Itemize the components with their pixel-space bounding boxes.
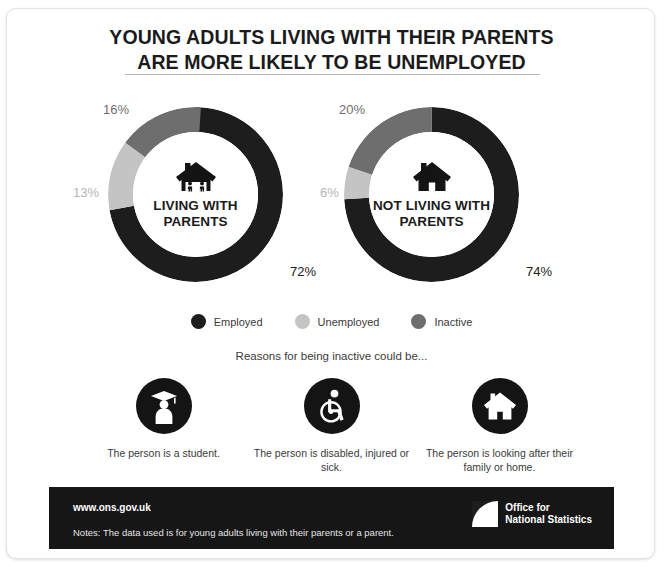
- title-line-2: ARE MORE LIKELY TO BE UNEMPLOYED: [7, 50, 655, 75]
- title-line-1: YOUNG ADULTS LIVING WITH THEIR PARENTS: [7, 25, 655, 50]
- pct-right-employed: 74%: [526, 264, 552, 279]
- reason-student: The person is a student.: [80, 378, 248, 474]
- donut-label-left: LIVING WITH PARENTS: [133, 198, 258, 230]
- ons-logo-text: Office for National Statistics: [505, 502, 592, 526]
- pct-right-inactive: 20%: [339, 102, 365, 117]
- house-with-people-icon: [175, 160, 217, 192]
- legend-item-employed: Employed: [191, 314, 263, 329]
- reasons-caption: Reasons for being inactive could be...: [7, 350, 655, 362]
- donut-label-right: NOT LIVING WITH PARENTS: [369, 198, 494, 230]
- donut-center-left: LIVING WITH PARENTS: [133, 132, 258, 257]
- reason-family-home: The person is looking after their family…: [416, 378, 584, 474]
- page-title: YOUNG ADULTS LIVING WITH THEIR PARENTS A…: [7, 25, 655, 75]
- reasons-row: The person is a student. The person is d…: [7, 378, 655, 474]
- legend-dot-employed: [191, 314, 206, 329]
- pct-left-employed: 72%: [290, 264, 316, 279]
- footer-notes: Notes: The data used is for young adults…: [73, 527, 394, 538]
- legend-label-unemployed: Unemployed: [318, 316, 380, 328]
- reason-text-disabled: The person is disabled, injured or sick.: [248, 446, 416, 474]
- ons-logo: Office for National Statistics: [472, 501, 592, 527]
- pct-left-inactive: 16%: [103, 102, 129, 117]
- ons-logo-line-1: Office for: [505, 502, 592, 514]
- legend-item-inactive: Inactive: [411, 314, 472, 329]
- reason-circle-student: [136, 378, 192, 434]
- reason-disabled: The person is disabled, injured or sick.: [248, 378, 416, 474]
- reason-circle-family-home: [472, 378, 528, 434]
- house-icon: [483, 391, 517, 421]
- pct-right-unemployed: 6%: [320, 185, 339, 200]
- reason-text-student: The person is a student.: [107, 446, 220, 460]
- legend-dot-unemployed: [295, 314, 310, 329]
- ons-logo-mark: [472, 501, 498, 527]
- reason-text-family-home: The person is looking after their family…: [416, 446, 584, 474]
- infographic-card: YOUNG ADULTS LIVING WITH THEIR PARENTS A…: [6, 8, 655, 559]
- donut-chart-living-with-parents: LIVING WITH PARENTS: [108, 107, 283, 282]
- pct-left-unemployed: 13%: [73, 185, 99, 200]
- house-icon: [412, 160, 452, 192]
- footer-bar: www.ons.gov.uk Notes: The data used is f…: [49, 487, 614, 549]
- chart-legend: Employed Unemployed Inactive: [7, 314, 655, 329]
- footer-url[interactable]: www.ons.gov.uk: [73, 502, 151, 513]
- title-divider: [125, 74, 540, 75]
- donut-chart-not-living-with-parents: NOT LIVING WITH PARENTS: [344, 107, 519, 282]
- legend-label-inactive: Inactive: [434, 316, 472, 328]
- legend-label-employed: Employed: [214, 316, 263, 328]
- ons-logo-line-2: National Statistics: [505, 514, 592, 526]
- donut-center-right: NOT LIVING WITH PARENTS: [369, 132, 494, 257]
- legend-item-unemployed: Unemployed: [295, 314, 380, 329]
- graduate-student-icon: [147, 388, 181, 424]
- legend-dot-inactive: [411, 314, 426, 329]
- wheelchair-icon: [316, 389, 348, 423]
- reason-circle-disabled: [304, 378, 360, 434]
